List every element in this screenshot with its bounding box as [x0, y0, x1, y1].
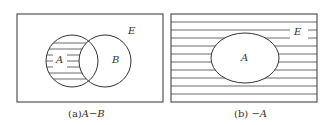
label-set-a-b: A	[241, 52, 248, 63]
caption-b: (b) −A	[234, 108, 267, 119]
label-set-a: A	[56, 54, 63, 65]
universe-rect-a	[17, 14, 163, 102]
label-e-a: E	[128, 25, 135, 36]
panel-a	[17, 14, 163, 102]
caption-a-prefix: (a)	[68, 108, 82, 119]
label-e-b: E	[294, 26, 301, 37]
caption-a: (a)A−B	[68, 108, 105, 119]
circle-b	[79, 35, 131, 87]
label-set-b: B	[112, 54, 119, 65]
caption-a-expr: A−B	[82, 108, 105, 119]
venn-diagrams	[0, 0, 335, 125]
caption-b-expr: −A	[251, 108, 267, 119]
caption-b-prefix: (b)	[234, 108, 248, 119]
